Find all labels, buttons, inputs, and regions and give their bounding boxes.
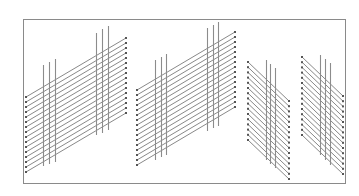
left-endpoint-dot	[301, 77, 303, 79]
left-endpoint-dot	[136, 104, 138, 106]
right-endpoint-dot	[342, 121, 344, 123]
right-endpoint-dot	[125, 97, 127, 99]
right-endpoint-dot	[125, 47, 127, 49]
right-endpoint-dot	[125, 112, 127, 114]
left-endpoint-dot	[247, 139, 249, 141]
diagram-background	[0, 0, 359, 196]
right-endpoint-dot	[342, 168, 344, 170]
right-endpoint-dot	[288, 116, 290, 118]
left-endpoint-dot	[301, 103, 303, 105]
left-endpoint-dot	[25, 101, 27, 103]
right-endpoint-dot	[125, 52, 127, 54]
left-endpoint-dot	[25, 156, 27, 158]
right-endpoint-dot	[288, 110, 290, 112]
left-endpoint-dot	[25, 141, 27, 143]
right-endpoint-dot	[234, 31, 236, 33]
left-endpoint-dot	[247, 123, 249, 125]
left-endpoint-dot	[247, 97, 249, 99]
right-endpoint-dot	[234, 66, 236, 68]
right-endpoint-dot	[342, 173, 344, 175]
left-endpoint-dot	[136, 99, 138, 101]
right-endpoint-dot	[288, 100, 290, 102]
left-endpoint-dot	[136, 114, 138, 116]
right-endpoint-dot	[125, 92, 127, 94]
right-endpoint-dot	[125, 107, 127, 109]
left-endpoint-dot	[301, 108, 303, 110]
left-endpoint-dot	[25, 166, 27, 168]
left-endpoint-dot	[25, 116, 27, 118]
right-endpoint-dot	[288, 136, 290, 138]
left-endpoint-dot	[25, 171, 27, 173]
right-endpoint-dot	[234, 56, 236, 58]
right-endpoint-dot	[342, 147, 344, 149]
left-endpoint-dot	[136, 134, 138, 136]
right-endpoint-dot	[288, 147, 290, 149]
left-endpoint-dot	[247, 134, 249, 136]
right-endpoint-dot	[234, 86, 236, 88]
left-endpoint-dot	[136, 149, 138, 151]
right-endpoint-dot	[125, 37, 127, 39]
left-endpoint-dot	[301, 66, 303, 68]
left-endpoint-dot	[136, 94, 138, 96]
right-endpoint-dot	[288, 178, 290, 180]
left-endpoint-dot	[136, 154, 138, 156]
right-endpoint-dot	[234, 81, 236, 83]
right-endpoint-dot	[234, 76, 236, 78]
right-endpoint-dot	[342, 100, 344, 102]
right-endpoint-dot	[342, 126, 344, 128]
right-endpoint-dot	[234, 96, 236, 98]
right-endpoint-dot	[125, 77, 127, 79]
right-endpoint-dot	[234, 91, 236, 93]
left-endpoint-dot	[25, 161, 27, 163]
left-endpoint-dot	[301, 87, 303, 89]
left-endpoint-dot	[136, 144, 138, 146]
right-endpoint-dot	[125, 57, 127, 59]
left-endpoint-dot	[247, 77, 249, 79]
right-endpoint-dot	[288, 173, 290, 175]
right-endpoint-dot	[125, 72, 127, 74]
right-endpoint-dot	[342, 137, 344, 139]
right-endpoint-dot	[342, 152, 344, 154]
left-endpoint-dot	[301, 82, 303, 84]
left-endpoint-dot	[301, 72, 303, 74]
right-endpoint-dot	[288, 157, 290, 159]
right-endpoint-dot	[342, 95, 344, 97]
right-endpoint-dot	[288, 162, 290, 164]
right-endpoint-dot	[342, 111, 344, 113]
left-endpoint-dot	[247, 92, 249, 94]
left-endpoint-dot	[301, 129, 303, 131]
left-endpoint-dot	[136, 164, 138, 166]
left-endpoint-dot	[136, 119, 138, 121]
right-endpoint-dot	[234, 51, 236, 53]
right-endpoint-dot	[288, 126, 290, 128]
right-endpoint-dot	[288, 131, 290, 133]
left-endpoint-dot	[247, 61, 249, 63]
left-endpoint-dot	[25, 111, 27, 113]
left-endpoint-dot	[136, 159, 138, 161]
wire-array-diagram	[0, 0, 359, 196]
right-endpoint-dot	[342, 142, 344, 144]
right-endpoint-dot	[234, 106, 236, 108]
left-endpoint-dot	[247, 129, 249, 131]
left-endpoint-dot	[247, 87, 249, 89]
right-endpoint-dot	[234, 36, 236, 38]
left-endpoint-dot	[25, 131, 27, 133]
right-endpoint-dot	[288, 142, 290, 144]
left-endpoint-dot	[247, 118, 249, 120]
left-endpoint-dot	[301, 98, 303, 100]
left-endpoint-dot	[247, 103, 249, 105]
left-endpoint-dot	[25, 136, 27, 138]
right-endpoint-dot	[125, 42, 127, 44]
left-endpoint-dot	[301, 56, 303, 58]
left-endpoint-dot	[25, 106, 27, 108]
right-endpoint-dot	[125, 102, 127, 104]
right-endpoint-dot	[342, 105, 344, 107]
right-endpoint-dot	[342, 157, 344, 159]
right-endpoint-dot	[342, 131, 344, 133]
right-endpoint-dot	[125, 62, 127, 64]
left-endpoint-dot	[25, 146, 27, 148]
left-endpoint-dot	[136, 124, 138, 126]
right-endpoint-dot	[288, 105, 290, 107]
left-endpoint-dot	[25, 121, 27, 123]
right-endpoint-dot	[234, 41, 236, 43]
